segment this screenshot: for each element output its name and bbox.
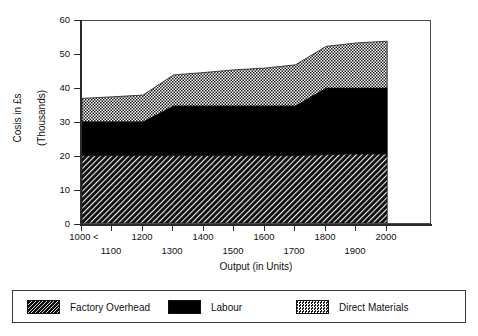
- chart-legend: Factory Overhead Labour Direct Materials: [12, 290, 466, 323]
- legend-swatch-factory-overhead-icon: [27, 300, 60, 314]
- x-axis-line: [80, 224, 432, 226]
- chart-page: 60 50 40 30 20 10 0 Cosis in £s (Thousan…: [0, 0, 478, 336]
- y-tick-30: [74, 122, 81, 123]
- y-tick-label-0: 0: [44, 219, 70, 229]
- y-tick-40: [74, 88, 81, 89]
- legend-item-factory-overhead[interactable]: Factory Overhead: [27, 299, 150, 315]
- x-tick-label-1300: 1300: [150, 245, 194, 256]
- x-tick-label-1500: 1500: [211, 245, 255, 256]
- y-tick-20: [74, 156, 81, 157]
- x-tick-label-1200: 1200: [120, 231, 164, 242]
- x-tick-label-1700: 1700: [272, 245, 316, 256]
- legend-label-factory-overhead: Factory Overhead: [70, 302, 150, 313]
- x-tick-label-1600: 1600: [242, 231, 286, 242]
- y-axis-title: Cosis in £s (Thousands): [0, 48, 48, 188]
- x-axis-title: Output (in Units): [81, 261, 431, 272]
- stacked-area-svg: [82, 21, 430, 223]
- area-factory-overhead: [82, 154, 387, 223]
- y-tick-50: [74, 54, 81, 55]
- y-tick-10: [74, 190, 81, 191]
- x-tick-label-1900: 1900: [333, 245, 377, 256]
- legend-label-direct-materials: Direct Materials: [339, 302, 408, 313]
- y-axis-title-line2: (Thousands): [36, 90, 47, 146]
- legend-swatch-labour-icon: [168, 300, 201, 314]
- x-tick-label-2000: 2000: [364, 231, 408, 242]
- x-tick-label-1800: 1800: [303, 231, 347, 242]
- y-tick-0: [74, 224, 81, 225]
- y-tick-60: [74, 20, 81, 21]
- x-tick-1300: [172, 226, 173, 231]
- legend-item-labour[interactable]: Labour: [168, 299, 242, 315]
- x-tick-label-1100: 1100: [89, 245, 133, 256]
- x-tick-label-1000: 1000 <: [62, 231, 106, 242]
- plot-area: [81, 20, 431, 224]
- x-tick-1100: [111, 226, 112, 231]
- x-tick-1900: [355, 226, 356, 231]
- x-tick-1700: [294, 226, 295, 231]
- y-axis-title-line1: Cosis in £s: [12, 94, 23, 143]
- x-tick-1500: [233, 226, 234, 231]
- legend-label-labour: Labour: [211, 302, 242, 313]
- y-tick-label-60: 60: [44, 15, 70, 25]
- legend-swatch-direct-materials-icon: [296, 300, 329, 314]
- legend-item-direct-materials[interactable]: Direct Materials: [296, 299, 408, 315]
- x-tick-label-1400: 1400: [181, 231, 225, 242]
